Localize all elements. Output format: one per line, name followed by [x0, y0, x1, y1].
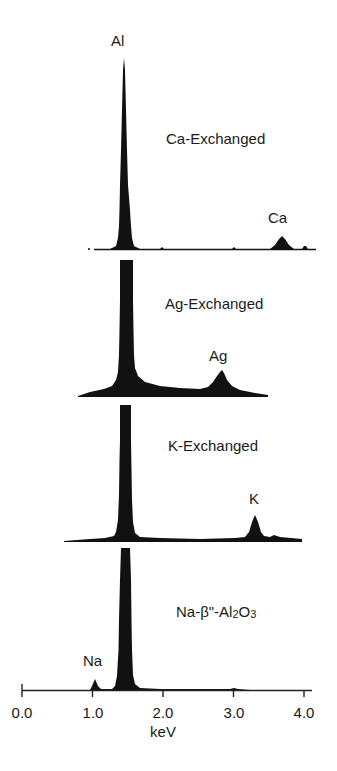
trace-ag-exchanged [78, 260, 268, 397]
subscript-3: 3 [250, 608, 256, 620]
x-tick-label-3: 3.0 [224, 705, 245, 720]
trace-k-exchanged [64, 405, 302, 542]
na-beta-mid: O [239, 603, 251, 620]
peak-label-ag: Ag [209, 348, 227, 363]
series-label-k-exchanged: K-Exchanged [168, 438, 258, 453]
x-tick-label-2: 2.0 [153, 705, 174, 720]
series-label-ca-exchanged: Ca-Exchanged [166, 131, 265, 146]
peak-label-na: Na [83, 653, 102, 668]
peak-label-k: K [249, 491, 259, 506]
peak-label-al: Al [111, 33, 124, 48]
x-tick-label-0: 0.0 [12, 705, 33, 720]
peak-label-ca: Ca [268, 210, 287, 225]
series-label-ag-exchanged: Ag-Exchanged [165, 296, 263, 311]
subscript-2: 2 [232, 608, 238, 620]
x-axis-label: keV [150, 724, 176, 739]
x-tick-label-4: 4.0 [294, 705, 315, 720]
na-beta-prefix: Na-β"-Al [176, 603, 232, 620]
x-axis [22, 684, 312, 697]
x-tick-label-1: 1.0 [83, 705, 104, 720]
series-label-na-beta-alumina: Na-β"-Al2O3 [176, 604, 256, 619]
eds-spectra-chart [0, 0, 337, 771]
